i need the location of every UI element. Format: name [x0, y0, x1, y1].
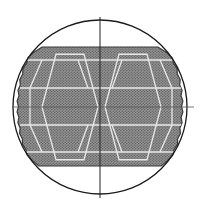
- tube-sheet-diagram: [0, 0, 207, 210]
